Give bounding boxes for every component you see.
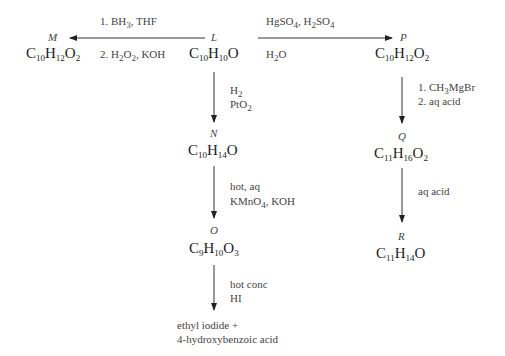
compound-formula-N: C10H14O	[188, 142, 238, 159]
compound-formula-M: C10H12O2	[26, 45, 80, 62]
reagents-L-to-M-line1: 1. BH3, THF	[100, 15, 157, 27]
compound-label-M: M	[48, 31, 57, 43]
reagents-O-line2: HI	[230, 292, 242, 304]
compound-label-L: L	[211, 31, 217, 43]
reagents-P-to-Q-line1: 1. CH3MgBr	[418, 81, 475, 93]
compound-formula-O: C9H10O3	[189, 240, 239, 257]
reagents-L-to-M-line2: 2. H2O2, KOH	[100, 48, 165, 60]
reagents-L-to-N-line2: PtO2	[230, 98, 252, 110]
compound-label-N: N	[210, 127, 217, 139]
compound-formula-L: C10H10O	[189, 45, 239, 62]
reagents-Q-to-R: aq acid	[418, 185, 449, 197]
compound-label-R: R	[398, 230, 405, 242]
final-products-line1: ethyl iodide +	[177, 319, 238, 331]
reagents-L-to-P-line1: HgSO4, H2SO4	[266, 15, 335, 27]
compound-formula-R: C11H14O	[376, 245, 425, 262]
reagents-O-line1: hot conc	[230, 278, 268, 290]
compound-label-O: O	[210, 224, 218, 236]
compound-formula-P: C10H12O2	[375, 45, 429, 62]
final-products-line2: 4-hydroxybenzoic acid	[177, 333, 278, 345]
reagents-L-to-P-line2: H2O	[266, 48, 286, 60]
reagents-L-to-N-line1: H2	[230, 84, 242, 96]
reagents-N-to-O-line2: KMnO4, KOH	[230, 195, 295, 207]
compound-label-Q: Q	[398, 130, 406, 142]
reagents-N-to-O-line1: hot, aq	[230, 180, 260, 192]
compound-formula-Q: C11H16O2	[374, 145, 428, 162]
compound-label-P: P	[400, 31, 407, 43]
reagents-P-to-Q-line2: 2. aq acid	[418, 95, 460, 107]
